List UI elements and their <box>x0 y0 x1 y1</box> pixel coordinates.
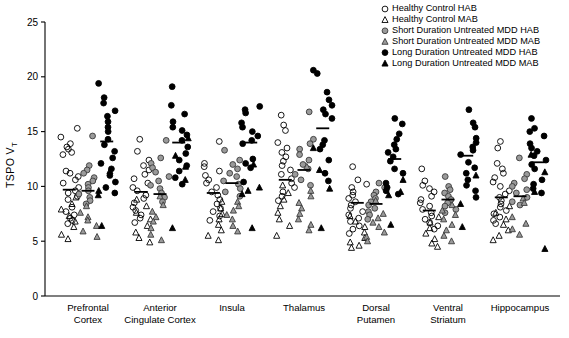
data-point <box>324 89 330 95</box>
data-point <box>500 221 506 227</box>
data-point <box>113 179 119 185</box>
data-point <box>297 146 303 152</box>
data-point <box>112 190 118 196</box>
data-point <box>327 185 333 191</box>
data-point <box>142 171 148 177</box>
data-point <box>529 145 535 151</box>
data-point <box>516 155 522 161</box>
data-point <box>163 137 169 143</box>
data-point <box>447 187 453 193</box>
data-point <box>458 201 464 207</box>
data-point <box>392 166 398 172</box>
y-tick-label-10: 10 <box>27 181 39 192</box>
y-tick-label-25: 25 <box>27 17 39 28</box>
data-point <box>147 239 153 245</box>
data-point <box>241 179 247 185</box>
data-point <box>255 133 261 139</box>
data-point <box>288 167 294 173</box>
data-point <box>217 168 223 174</box>
x-axis-label-4-line2: Putamen <box>357 314 395 325</box>
data-point <box>360 209 366 215</box>
data-point <box>355 177 361 183</box>
data-point <box>185 144 191 150</box>
data-point <box>419 166 425 172</box>
data-point <box>103 185 109 191</box>
data-column-black-circle <box>383 116 406 228</box>
data-point <box>297 152 303 158</box>
data-point <box>60 180 66 186</box>
data-point <box>542 169 548 175</box>
data-point <box>452 212 458 218</box>
data-point <box>179 128 185 134</box>
data-point <box>394 136 400 142</box>
data-point <box>400 170 406 176</box>
data-point <box>295 216 301 222</box>
data-point <box>465 177 471 183</box>
legend-label-5: Long Duration Untreated MDD MAB <box>392 58 539 68</box>
data-point <box>329 102 335 108</box>
data-point <box>76 185 82 191</box>
data-point <box>58 134 64 140</box>
data-point <box>306 227 312 233</box>
data-point <box>169 84 175 90</box>
data-point <box>148 231 154 237</box>
x-axis-label-4: Dorsal <box>362 302 390 313</box>
data-point <box>110 155 116 161</box>
data-point <box>229 216 235 222</box>
data-point <box>494 160 500 166</box>
data-point <box>170 124 176 130</box>
data-group-thalamus <box>274 67 335 238</box>
data-point <box>348 244 354 250</box>
data-point <box>216 139 222 145</box>
data-point <box>458 152 464 158</box>
data-point <box>276 216 282 222</box>
data-point <box>365 216 371 222</box>
data-point <box>306 157 312 163</box>
data-point <box>292 171 298 177</box>
data-point <box>347 239 353 245</box>
data-point <box>522 176 528 182</box>
data-group-prefrontal-cortex <box>58 80 118 241</box>
data-point <box>94 234 100 240</box>
x-axis-label-5-line2: Striatum <box>430 314 466 325</box>
data-column-gray-circle <box>292 109 316 233</box>
data-group-hippocampus <box>490 116 549 252</box>
data-point <box>317 146 323 152</box>
data-point <box>503 216 509 222</box>
data-point <box>218 227 224 233</box>
data-point <box>58 231 64 237</box>
legend-label-4: Long Duration Untreated MDD HAB <box>392 47 538 57</box>
data-point <box>257 103 263 109</box>
data-point <box>364 181 370 187</box>
data-point <box>417 200 423 206</box>
data-point <box>346 231 352 237</box>
data-point <box>235 166 241 172</box>
data-point <box>346 196 352 202</box>
x-axis-label-6: Hippocampus <box>491 302 550 313</box>
data-point <box>362 224 368 230</box>
data-point <box>136 235 142 241</box>
data-point <box>149 208 155 214</box>
data-point <box>256 184 262 190</box>
data-point <box>148 182 154 188</box>
data-point <box>134 188 140 194</box>
data-point <box>317 167 323 173</box>
data-point <box>296 200 302 206</box>
data-point <box>323 111 329 117</box>
data-point <box>101 100 107 106</box>
scatter-plot-figure: 0510152025TSPO VTPrefrontalCortexAnterio… <box>0 0 569 338</box>
data-point <box>143 203 149 209</box>
y-axis-label: TSPO VT <box>4 142 19 188</box>
data-point <box>376 224 382 230</box>
data-point <box>307 141 313 147</box>
data-point <box>215 237 221 243</box>
data-point <box>329 116 335 122</box>
data-point <box>222 147 228 153</box>
data-point <box>400 177 406 183</box>
data-point <box>470 147 476 153</box>
data-point <box>214 185 220 191</box>
data-column-gray-circle <box>76 133 100 239</box>
legend-marker-open-circle <box>382 6 388 12</box>
data-point <box>227 170 233 176</box>
data-point <box>308 193 314 199</box>
